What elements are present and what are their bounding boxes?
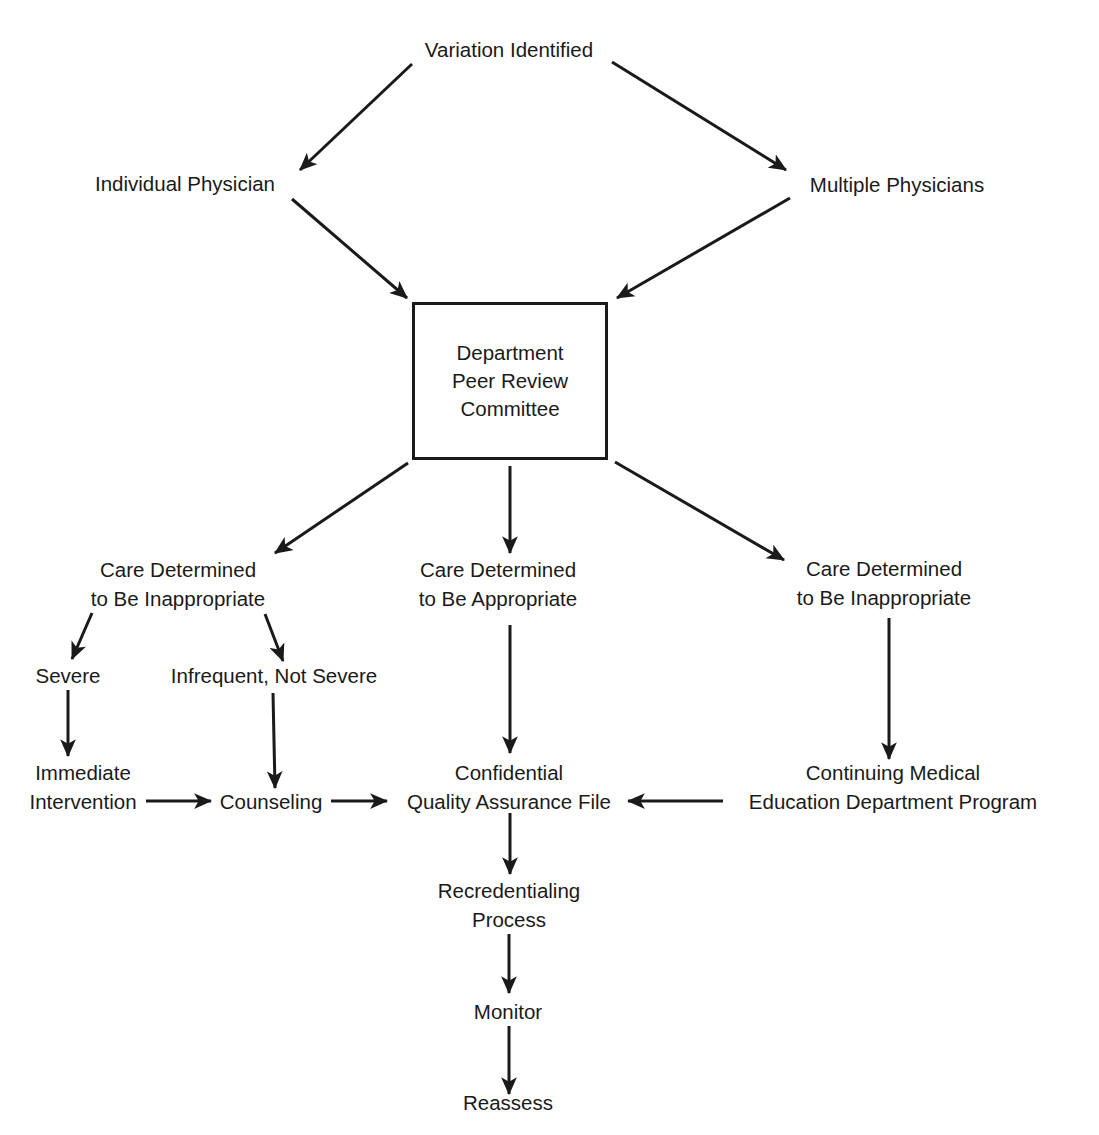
- arrow-inappropriate-to-infrequent: [265, 614, 283, 661]
- node-label: Recredentialing: [438, 876, 580, 905]
- arrow-individual-to-committee: [292, 199, 407, 298]
- node-label: Quality Assurance File: [407, 787, 611, 816]
- node-severe: Severe: [36, 661, 101, 690]
- node-label: Immediate: [29, 758, 136, 787]
- arrow-infrequent-to-counseling: [273, 693, 275, 788]
- node-label: Care Determined: [91, 555, 265, 584]
- node-peer-review-committee: Department Peer Review Committee: [412, 302, 608, 460]
- node-label: Monitor: [474, 997, 542, 1026]
- node-confidential-qa-file: Confidential Quality Assurance File: [407, 758, 611, 816]
- arrow-committee-to-inappropriate-right: [615, 462, 784, 560]
- arrow-committee-to-inappropriate-left: [275, 463, 408, 553]
- arrow-variation-to-individual: [300, 64, 412, 170]
- node-label: Department: [456, 339, 563, 367]
- node-label: Variation Identified: [425, 35, 593, 64]
- node-counseling: Counseling: [220, 787, 323, 816]
- node-care-inappropriate-right: Care Determined to Be Inappropriate: [797, 554, 971, 612]
- node-multiple-physicians: Multiple Physicians: [810, 170, 984, 199]
- node-infrequent-not-severe: Infrequent, Not Severe: [171, 661, 377, 690]
- node-label: Individual Physician: [95, 169, 275, 198]
- node-label: Process: [438, 905, 580, 934]
- node-label: Confidential: [407, 758, 611, 787]
- node-label: Multiple Physicians: [810, 170, 984, 199]
- arrow-variation-to-multiple: [612, 62, 786, 170]
- node-label: Care Determined: [419, 555, 577, 584]
- node-label: Peer Review: [452, 367, 568, 395]
- node-recredentialing-process: Recredentialing Process: [438, 876, 580, 934]
- node-label: Severe: [36, 661, 101, 690]
- node-label: Care Determined: [797, 554, 971, 583]
- node-label: Continuing Medical: [749, 758, 1037, 787]
- node-individual-physician: Individual Physician: [95, 169, 275, 198]
- node-label: to Be Appropriate: [419, 584, 577, 613]
- node-label: Education Department Program: [749, 787, 1037, 816]
- node-label: to Be Inappropriate: [797, 583, 971, 612]
- arrow-multiple-to-committee: [617, 198, 790, 298]
- node-cme-program: Continuing Medical Education Department …: [749, 758, 1037, 816]
- node-care-appropriate: Care Determined to Be Appropriate: [419, 555, 577, 613]
- node-label: to Be Inappropriate: [91, 584, 265, 613]
- node-care-inappropriate-left: Care Determined to Be Inappropriate: [91, 555, 265, 613]
- node-reassess: Reassess: [463, 1088, 553, 1117]
- flowchart-canvas: Variation Identified Individual Physicia…: [0, 0, 1099, 1135]
- node-variation-identified: Variation Identified: [425, 35, 593, 64]
- node-label: Committee: [460, 395, 559, 423]
- node-immediate-intervention: Immediate Intervention: [29, 758, 136, 816]
- node-monitor: Monitor: [474, 997, 542, 1026]
- node-label: Infrequent, Not Severe: [171, 661, 377, 690]
- node-label: Reassess: [463, 1088, 553, 1117]
- node-label: Counseling: [220, 787, 323, 816]
- arrow-inappropriate-to-severe: [72, 613, 92, 659]
- node-label: Intervention: [29, 787, 136, 816]
